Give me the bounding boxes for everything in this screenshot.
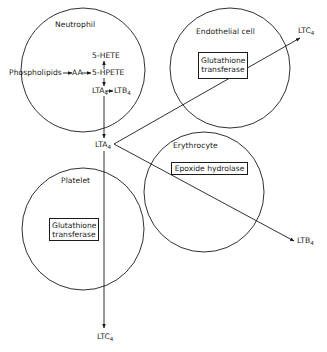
neutrophil-ltb4-label: LTB4 [114, 86, 131, 95]
platelet-ltc4-label: LTC4 [97, 332, 113, 341]
erythrocyte-ltb4-text: LTB [297, 236, 310, 245]
platelet-ltc4-subscript: 4 [110, 336, 114, 342]
lta4-text: LTA [92, 86, 105, 95]
platelet-enzyme-line2: transferase [52, 230, 96, 239]
central-lta4-subscript: 4 [108, 144, 112, 150]
arrow-to-erythrocyte-ltb4 [114, 144, 294, 241]
central-lta4-text: LTA [95, 140, 108, 149]
lta4-subscript: 4 [105, 90, 109, 96]
platelet-enzyme-line1: Glutathione [52, 221, 96, 230]
ltb4-subscript: 4 [127, 90, 131, 96]
endothelial-ltc4-label: LTC4 [298, 26, 314, 35]
neutrophil-lta4-label: LTA4 [92, 86, 108, 95]
platelet-ltc4-text: LTC [97, 332, 110, 341]
aa-label: AA [72, 68, 83, 77]
platelet-enzyme-box: Glutathione transferase [49, 218, 99, 241]
endothelial-enzyme-line1: Glutathione [201, 56, 245, 65]
endothelial-ltc4-subscript: 4 [311, 30, 315, 36]
ltb4-text: LTB [114, 86, 127, 95]
endothelial-label: Endothelial cell [196, 27, 255, 36]
erythrocyte-enzyme-label: Epoxide hydrolase [174, 164, 245, 173]
hete-label: 5-HETE [92, 51, 120, 60]
neutrophil-label: Neutrophil [55, 20, 95, 29]
endothelial-enzyme-box: Glutathione transferase [198, 52, 248, 79]
erythrocyte-ltb4-subscript: 4 [310, 240, 314, 246]
diagram-canvas [0, 0, 327, 352]
platelet-label: Platelet [61, 176, 90, 185]
endothelial-enzyme-line2: transferase [201, 65, 245, 74]
hpete-label: 5-HPETE [92, 68, 124, 77]
erythrocyte-label: Erythrocyte [173, 141, 218, 150]
erythrocyte-ltb4-label: LTB4 [297, 236, 314, 245]
central-lta4-label: LTA4 [95, 140, 111, 149]
endothelial-ltc4-text: LTC [298, 26, 311, 35]
phospholipids-label: Phospholipids [9, 68, 62, 77]
erythrocyte-enzyme-box: Epoxide hydrolase [171, 162, 248, 175]
